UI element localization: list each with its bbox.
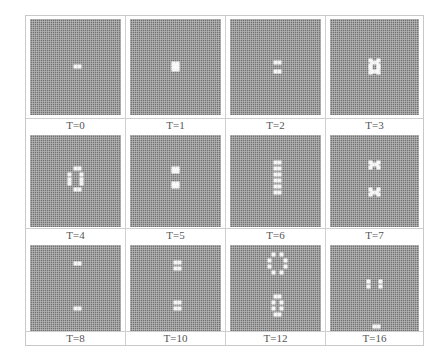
live-cell (174, 267, 177, 270)
live-cell (176, 185, 179, 188)
live-cell (274, 179, 277, 182)
live-cell (272, 307, 275, 310)
live-cell (367, 280, 370, 283)
live-cell (74, 307, 77, 310)
live-cell (272, 301, 275, 304)
panel-label: T=6 (226, 228, 325, 242)
live-cell (377, 71, 380, 74)
live-cell (377, 166, 380, 169)
live-cell (78, 167, 81, 170)
live-cell (377, 193, 380, 196)
automaton-grid (330, 19, 419, 115)
live-cell (369, 71, 372, 74)
live-cell (78, 307, 81, 310)
live-cell (268, 265, 271, 268)
live-cell (278, 61, 281, 64)
automaton-grid (130, 245, 221, 331)
panel-label: T=0 (26, 118, 125, 132)
live-cell (68, 173, 71, 176)
live-cell (178, 261, 181, 264)
automaton-grid (230, 19, 321, 115)
live-cell (280, 253, 283, 256)
automaton-grid (30, 245, 121, 331)
live-cell (369, 193, 372, 196)
live-cell (172, 170, 175, 173)
live-cell (278, 185, 281, 188)
panel-t1: T=1 (125, 16, 225, 132)
live-cell (274, 61, 277, 64)
panel-t4: T=4 (26, 132, 125, 242)
live-cell (278, 70, 281, 73)
live-cell (377, 325, 380, 328)
panel-label: T=8 (26, 331, 125, 345)
live-cell (274, 185, 277, 188)
live-cell (178, 301, 181, 304)
live-cell (68, 182, 71, 185)
panel-t3: T=3 (325, 16, 423, 132)
live-cell (369, 166, 372, 169)
live-cell (274, 313, 277, 316)
live-cell (172, 185, 175, 188)
automaton-grid (30, 135, 121, 227)
live-cell (379, 280, 382, 283)
automaton-grid (30, 19, 121, 115)
live-cell (176, 170, 179, 173)
panel-t0: T=0 (26, 16, 125, 132)
panel-t16: T=16 (325, 242, 423, 345)
live-cell (174, 261, 177, 264)
live-cell (278, 167, 281, 170)
live-cell (174, 307, 177, 310)
live-cell (74, 188, 77, 191)
live-cell (78, 188, 81, 191)
live-cell (272, 253, 275, 256)
live-cell (274, 70, 277, 73)
live-cell (278, 295, 281, 298)
live-cell (278, 191, 281, 194)
live-cell (176, 68, 179, 71)
live-cell (80, 178, 83, 181)
live-cell (274, 161, 277, 164)
live-cell (78, 65, 81, 68)
live-cell (74, 262, 77, 265)
live-cell (278, 313, 281, 316)
live-cell (172, 68, 175, 71)
live-cell (178, 267, 181, 270)
automaton-grid (230, 245, 321, 331)
panel-label: T=1 (126, 118, 225, 132)
live-cell (78, 262, 81, 265)
panel-label: T=5 (126, 228, 225, 242)
live-cell (278, 179, 281, 182)
row-2: T=4 T=5 T=6 T=7 (26, 132, 423, 242)
panel-label: T=16 (326, 331, 423, 345)
panel-t7: T=7 (325, 132, 423, 242)
panel-label: T=4 (26, 228, 125, 242)
automaton-grid (130, 19, 221, 115)
row-1: T=0 T=1 T=2 T=3 (26, 16, 423, 132)
live-cell (80, 182, 83, 185)
live-cell (274, 295, 277, 298)
live-cell (80, 173, 83, 176)
automaton-grid (130, 135, 221, 227)
live-cell (274, 173, 277, 176)
panel-label: T=12 (226, 331, 325, 345)
live-cell (68, 178, 71, 181)
panel-label: T=7 (326, 228, 423, 242)
panel-t6: T=6 (225, 132, 325, 242)
panel-label: T=2 (226, 118, 325, 132)
live-cell (274, 167, 277, 170)
panel-label: T=10 (126, 331, 225, 345)
panel-t2: T=2 (225, 16, 325, 132)
live-cell (174, 301, 177, 304)
live-cell (74, 65, 77, 68)
live-cell (178, 307, 181, 310)
live-cell (284, 265, 287, 268)
row-3: T=8 T=10 T=12 T=16 (26, 242, 423, 345)
live-cell (272, 271, 275, 274)
panel-t12: T=12 (225, 242, 325, 345)
live-cell (367, 285, 370, 288)
figure-table: T=0 T=1 T=2 T=3 T=4 T=5 T=6 T=7 (25, 15, 424, 346)
live-cell (284, 259, 287, 262)
live-cell (280, 307, 283, 310)
panel-t8: T=8 (26, 242, 125, 345)
live-cell (74, 167, 77, 170)
